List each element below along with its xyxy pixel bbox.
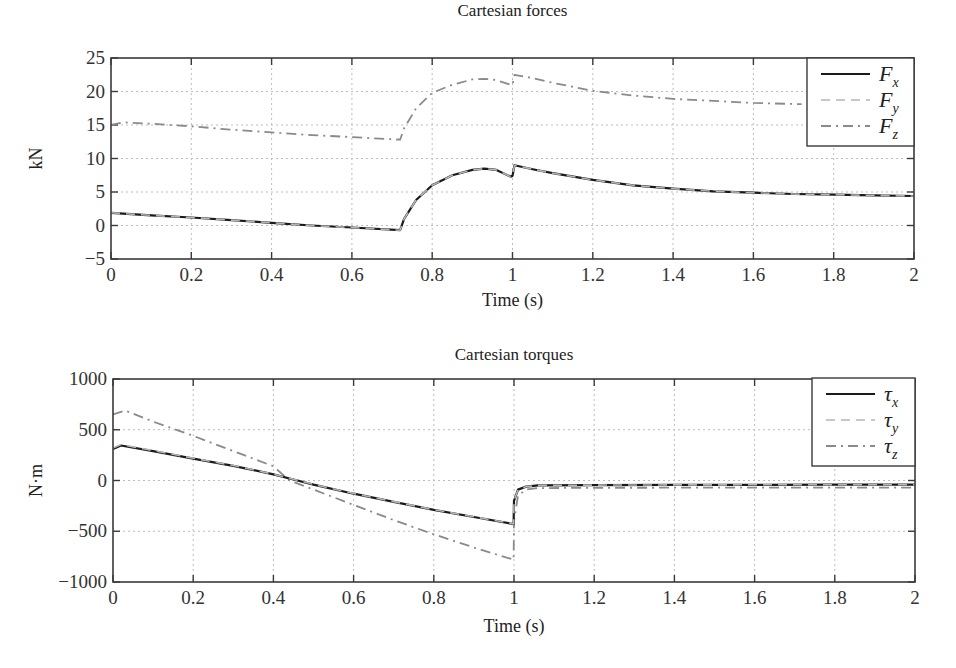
x-tick-label: 1.2 — [581, 264, 605, 285]
series-fz — [111, 75, 802, 140]
y-tick-label: 0 — [98, 470, 108, 491]
chart-title: Cartesian torques — [455, 345, 574, 364]
x-tick-label: 0.6 — [340, 264, 364, 285]
x-tick-label: 2 — [910, 587, 920, 608]
legend-subscript: z — [891, 447, 898, 462]
legend: FxFyFz — [807, 58, 914, 146]
legend-symbol: F — [878, 113, 893, 138]
y-tick-label: 0 — [96, 215, 106, 236]
legend-subscript: x — [891, 75, 899, 90]
x-tick-label: 0.2 — [181, 587, 205, 608]
chart-title: Cartesian forces — [458, 1, 568, 20]
x-tick-label: 0.8 — [420, 264, 444, 285]
legend-box — [812, 378, 915, 466]
x-tick-label: 1.8 — [823, 587, 847, 608]
x-tick-label: 0.2 — [179, 264, 203, 285]
x-tick-label: 1.6 — [743, 587, 767, 608]
x-tick-label: 1.4 — [661, 264, 685, 285]
x-tick-label: 0.8 — [422, 587, 446, 608]
x-tick-label: 1 — [508, 264, 518, 285]
y-tick-label: −5 — [85, 248, 105, 269]
legend-symbol: F — [878, 87, 893, 112]
y-axis-label: N·m — [26, 464, 46, 497]
y-tick-label: 1000 — [69, 368, 107, 389]
y-tick-label: −1000 — [58, 571, 107, 592]
y-tick-label: 5 — [96, 181, 106, 202]
y-tick-label: −500 — [68, 520, 107, 541]
x-tick-label: 2 — [909, 264, 919, 285]
legend: τxτyτz — [812, 378, 915, 466]
x-tick-label: 0.4 — [262, 587, 286, 608]
legend-subscript: x — [891, 395, 899, 410]
forces-panel: 00.20.40.60.811.21.41.61.82−50510152025C… — [26, 1, 919, 311]
x-tick-label: 1.2 — [582, 587, 606, 608]
x-tick-label: 0.4 — [260, 264, 284, 285]
x-axis-label: Time (s) — [482, 290, 543, 311]
legend-symbol: F — [878, 61, 893, 86]
x-tick-label: 0 — [106, 264, 116, 285]
x-tick-label: 1 — [509, 587, 519, 608]
y-tick-label: 25 — [86, 47, 105, 68]
x-tick-label: 1.8 — [822, 264, 846, 285]
x-tick-label: 0 — [108, 587, 118, 608]
legend-subscript: z — [891, 127, 898, 142]
figure: 00.20.40.60.811.21.41.61.82−50510152025C… — [0, 0, 956, 668]
grid-lines — [113, 379, 915, 582]
x-axis-label: Time (s) — [484, 616, 545, 637]
y-tick-label: 10 — [86, 148, 105, 169]
x-tick-label: 1.4 — [663, 587, 687, 608]
grid-lines — [111, 58, 914, 259]
torques-panel: 00.20.40.60.811.21.41.61.82−1000−5000500… — [26, 345, 920, 637]
y-tick-label: 500 — [79, 419, 108, 440]
y-axis-label: kN — [26, 148, 46, 170]
y-tick-label: 15 — [86, 114, 105, 135]
y-tick-label: 20 — [86, 81, 105, 102]
x-tick-label: 1.6 — [742, 264, 766, 285]
x-tick-label: 0.6 — [342, 587, 366, 608]
